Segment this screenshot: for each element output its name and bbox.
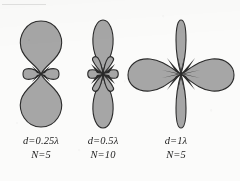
caption-panel-3: d=1λ N=5 bbox=[143, 134, 209, 162]
caption-1-elements: N=5 bbox=[4, 148, 78, 162]
main-lobe-down bbox=[176, 74, 186, 128]
radiation-pattern-figure: d=0.25λ N=5 d=0.5λ N=10 d=1λ N=5 bbox=[0, 0, 240, 181]
radiation-pattern-plot-2 bbox=[80, 16, 126, 132]
caption-3-spacing: d=1λ bbox=[143, 134, 209, 148]
main-lobe-up bbox=[20, 21, 61, 74]
grating-lobe-right bbox=[181, 59, 234, 91]
caption-panel-2: d=0.5λ N=10 bbox=[68, 134, 138, 162]
radiation-pattern-plot-3 bbox=[126, 18, 236, 130]
caption-3-elements: N=5 bbox=[143, 148, 209, 162]
caption-2-spacing: d=0.5λ bbox=[68, 134, 138, 148]
main-lobe-down bbox=[20, 74, 61, 127]
radiation-pattern-plot-1 bbox=[8, 16, 74, 132]
scan-artifact-rule bbox=[2, 4, 46, 5]
main-lobe-up bbox=[176, 20, 186, 74]
caption-panel-1: d=0.25λ N=5 bbox=[4, 134, 78, 162]
caption-2-elements: N=10 bbox=[68, 148, 138, 162]
caption-1-spacing: d=0.25λ bbox=[4, 134, 78, 148]
grating-lobe-left bbox=[128, 59, 181, 91]
